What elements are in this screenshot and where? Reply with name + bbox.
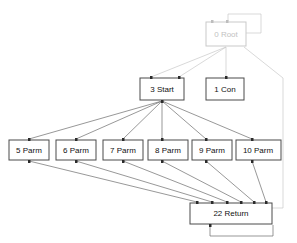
- node-parm-10-input-port[interactable]: [251, 138, 254, 141]
- edge-start-p6: [76, 101, 162, 139]
- node-parm-7[interactable]: 7 Parm: [103, 138, 143, 163]
- node-parm-8[interactable]: 8 Parm: [148, 138, 188, 163]
- node-return-input-port-2[interactable]: [211, 201, 214, 204]
- node-return-input-port-6[interactable]: [265, 201, 268, 204]
- node-root[interactable]: 0 Root: [206, 20, 246, 46]
- node-parm-10[interactable]: 10 Parm: [236, 138, 281, 163]
- node-parm-8-label: 8 Parm: [155, 146, 181, 155]
- edge-p8-ret: [162, 161, 241, 202]
- node-start-output-port[interactable]: [161, 100, 164, 103]
- edge-return-selfloop: [210, 224, 273, 236]
- node-return-label: 22 Return: [213, 209, 248, 218]
- edge-root-start-b: [151, 47, 226, 77]
- node-con[interactable]: 1 Con: [206, 76, 244, 100]
- node-return-input-port-1[interactable]: [196, 201, 199, 204]
- node-parm-6-input-port[interactable]: [75, 138, 78, 141]
- edge-root-return-rail: [244, 47, 283, 208]
- node-parm-7-label: 7 Parm: [110, 146, 136, 155]
- node-root-input-port[interactable]: [226, 20, 229, 23]
- node-parm-9-input-port[interactable]: [205, 138, 208, 141]
- node-parm-10-output-port[interactable]: [251, 160, 254, 163]
- node-parm-7-output-port[interactable]: [122, 160, 125, 163]
- node-return-input-port-4[interactable]: [240, 201, 243, 204]
- node-parm-8-output-port[interactable]: [161, 160, 164, 163]
- node-parm-7-input-port[interactable]: [122, 138, 125, 141]
- node-con-input-port[interactable]: [225, 76, 228, 79]
- node-parm-9[interactable]: 9 Parm: [192, 138, 232, 163]
- node-con-label: 1 Con: [214, 85, 235, 94]
- node-parm-6[interactable]: 6 Parm: [56, 138, 96, 163]
- node-return-input-port-5[interactable]: [253, 201, 256, 204]
- node-parm-9-output-port[interactable]: [205, 160, 208, 163]
- edge-p5-ret: [29, 161, 197, 202]
- node-parm-5-input-port[interactable]: [28, 138, 31, 141]
- node-return[interactable]: 22 Return: [190, 201, 272, 227]
- node-start-label: 3 Start: [150, 85, 174, 94]
- edge-p9-ret: [206, 161, 254, 202]
- node-start-input-port-2[interactable]: [178, 76, 181, 79]
- edge-p7-ret: [123, 161, 227, 202]
- edge-p6-ret: [76, 161, 212, 202]
- node-start[interactable]: 3 Start: [140, 76, 184, 103]
- node-parm-6-output-port[interactable]: [75, 160, 78, 163]
- node-start-input-port-1[interactable]: [150, 76, 153, 79]
- node-parm-6-label: 6 Parm: [63, 146, 89, 155]
- edge-start-p10: [162, 101, 252, 139]
- edge-start-p9: [162, 101, 206, 139]
- node-parm-10-label: 10 Parm: [243, 146, 274, 155]
- edge-root-start-a: [179, 47, 226, 77]
- edge-p10-ret: [252, 161, 266, 202]
- node-graph-canvas: 0 Root 3 Start 1 Con 5 Parm 6 Parm 7 Par…: [0, 0, 297, 243]
- node-parm-8-input-port[interactable]: [161, 138, 164, 141]
- node-parm-9-label: 9 Parm: [199, 146, 225, 155]
- node-return-input-port-3[interactable]: [226, 201, 229, 204]
- node-return-output-port[interactable]: [209, 224, 212, 227]
- node-parm-5-output-port[interactable]: [28, 160, 31, 163]
- node-parm-5[interactable]: 5 Parm: [9, 138, 49, 163]
- node-root-input-port-2[interactable]: [211, 20, 214, 23]
- node-parm-5-label: 5 Parm: [16, 146, 42, 155]
- node-root-label: 0 Root: [214, 30, 238, 39]
